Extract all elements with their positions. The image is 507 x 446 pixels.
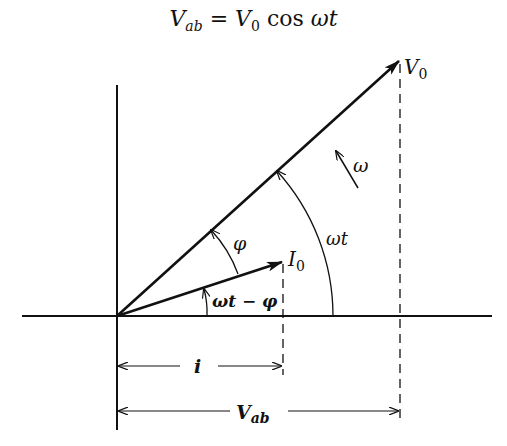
phasor-diagram: V0 I0 ω ωt φ ωt − φ i Vab bbox=[0, 0, 507, 446]
omega-t-angle-arc bbox=[277, 171, 333, 316]
v0-label: V0 bbox=[404, 55, 427, 82]
phi-label: φ bbox=[233, 232, 247, 254]
omega-t-minus-phi-label: ωt − φ bbox=[212, 291, 278, 311]
v0-phasor-arrow bbox=[117, 61, 399, 316]
i0-label: I0 bbox=[287, 247, 305, 274]
omega-t-label: ωt bbox=[326, 228, 349, 249]
i-projection-label: i bbox=[194, 355, 201, 377]
omega-t-minus-phi-angle-arc bbox=[204, 289, 207, 316]
omega-label: ω bbox=[353, 154, 369, 176]
vab-projection-label: Vab bbox=[236, 401, 270, 426]
